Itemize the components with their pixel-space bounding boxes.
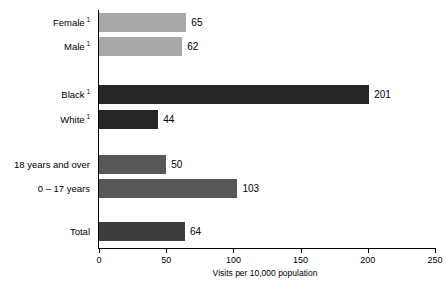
x-axis-tick	[301, 249, 302, 253]
x-axis-tick	[435, 249, 436, 253]
x-axis-tick-label: 250	[427, 255, 442, 265]
footnote-marker: 1	[85, 113, 90, 120]
x-axis-tick	[99, 249, 100, 253]
footnote-marker: 1	[85, 88, 90, 95]
category-label: Male 1	[64, 37, 90, 56]
x-axis-tick-label: 50	[161, 255, 171, 265]
bar-value-label: 65	[191, 13, 202, 32]
category-label: White 1	[60, 110, 90, 129]
category-label: Female 1	[53, 13, 90, 32]
x-axis-tick-label: 0	[96, 255, 101, 265]
bar	[99, 13, 186, 32]
bar-value-label: 201	[374, 85, 391, 104]
x-axis-line	[99, 248, 436, 249]
bar-value-label: 44	[163, 110, 174, 129]
bar-value-label: 50	[171, 155, 182, 174]
x-axis-title: Visits per 10,000 population	[213, 268, 318, 278]
bar	[99, 110, 158, 129]
bar	[99, 155, 166, 174]
category-label: 18 years and over	[14, 155, 90, 174]
x-axis-tick-label: 100	[226, 255, 241, 265]
bar	[99, 222, 185, 241]
x-axis-tick	[166, 249, 167, 253]
x-axis-tick	[368, 249, 369, 253]
bar-value-label: 62	[187, 37, 198, 56]
category-label: Total	[70, 222, 90, 241]
bar	[99, 37, 182, 56]
category-label: Black 1	[61, 85, 90, 104]
bar	[99, 179, 237, 198]
x-axis-tick-label: 150	[293, 255, 308, 265]
bar-value-label: 103	[242, 179, 259, 198]
bar	[99, 85, 369, 104]
footnote-marker: 1	[85, 16, 90, 23]
x-axis-tick	[233, 249, 234, 253]
x-axis-tick-label: 200	[360, 255, 375, 265]
footnote-marker: 1	[85, 40, 90, 47]
bar-value-label: 64	[190, 222, 201, 241]
bar-chart: 050100150200250 65Female 162Male 1201Bla…	[0, 0, 446, 284]
category-label: 0 – 17 years	[38, 179, 90, 198]
